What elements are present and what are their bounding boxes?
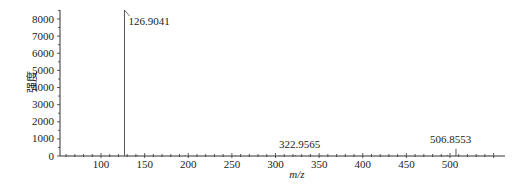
x-tick-label: 350 [311, 158, 328, 170]
y-tick-label: 0 [49, 150, 55, 162]
x-tick-label: 400 [355, 158, 372, 170]
y-axis-label: 强度 [25, 71, 38, 93]
peak-label: 506.8553 [430, 133, 472, 145]
x-tick-label: 200 [180, 158, 197, 170]
x-tick-label: 450 [398, 158, 415, 170]
y-tick-label: 8000 [32, 13, 55, 25]
peak-label: 322.9565 [279, 138, 321, 150]
x-tick-label: 100 [93, 158, 110, 170]
y-tick-label: 7000 [32, 30, 55, 42]
x-axis: 100150200250300350400450500 [60, 153, 505, 170]
x-tick-label: 150 [136, 158, 153, 170]
y-tick-label: 6000 [32, 47, 55, 59]
y-tick-label: 1000 [32, 132, 55, 144]
x-axis-label: m/z [289, 168, 305, 180]
major-peaks: 126.9041322.9565506.8553 [124, 10, 471, 156]
mass-spectrum-chart: 010002000300040005000600070008000 100150… [0, 0, 526, 186]
y-tick-label: 2000 [32, 115, 55, 127]
x-tick-label: 300 [267, 158, 284, 170]
x-tick-label: 250 [224, 158, 241, 170]
x-tick-label: 500 [442, 158, 459, 170]
y-tick-label: 3000 [32, 98, 55, 110]
peak-label: 126.9041 [128, 15, 169, 27]
